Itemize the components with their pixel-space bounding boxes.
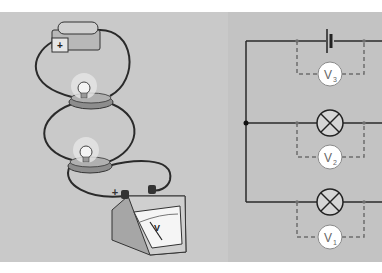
circuit-figure: + V +: [0, 0, 382, 273]
cell-symbol-icon: [327, 29, 331, 53]
voltmeter-v2-label: V: [324, 151, 332, 165]
schematic-wires: [246, 41, 382, 202]
voltmeter-v1: V 1: [318, 225, 342, 249]
battery-plus-label: +: [57, 40, 63, 51]
voltmeter-icon: V +: [112, 185, 186, 255]
voltmeter-v2: V 2: [318, 145, 342, 169]
lamp-symbol-icon: [317, 110, 343, 136]
voltmeter-v3-subscript: 3: [333, 76, 337, 83]
battery-icon: +: [52, 22, 100, 52]
voltmeter-face-label: V: [154, 223, 160, 233]
voltmeter-v3: V 3: [318, 62, 342, 86]
voltmeter-v3-label: V: [324, 68, 332, 82]
bulb-icon-bottom: [68, 137, 112, 173]
voltmeter-v1-subscript: 1: [333, 239, 337, 246]
voltmeter-plus-label: +: [112, 186, 118, 198]
junction-dot: [244, 121, 249, 126]
lamp-symbol-icon: [317, 189, 343, 215]
bulb-icon-top: [69, 73, 113, 109]
voltmeter-v1-label: V: [324, 231, 332, 245]
voltmeter-v2-subscript: 2: [333, 159, 337, 166]
